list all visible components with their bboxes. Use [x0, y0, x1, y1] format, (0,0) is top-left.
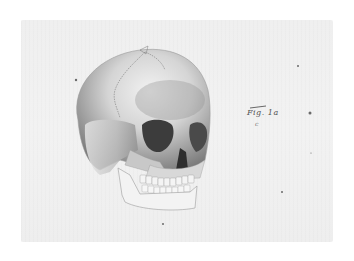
figure-caption: Fig. 1a	[247, 108, 279, 117]
figure-caption-sub: c	[255, 120, 258, 127]
skull-drawing	[0, 0, 354, 261]
temporal-region	[85, 120, 138, 175]
